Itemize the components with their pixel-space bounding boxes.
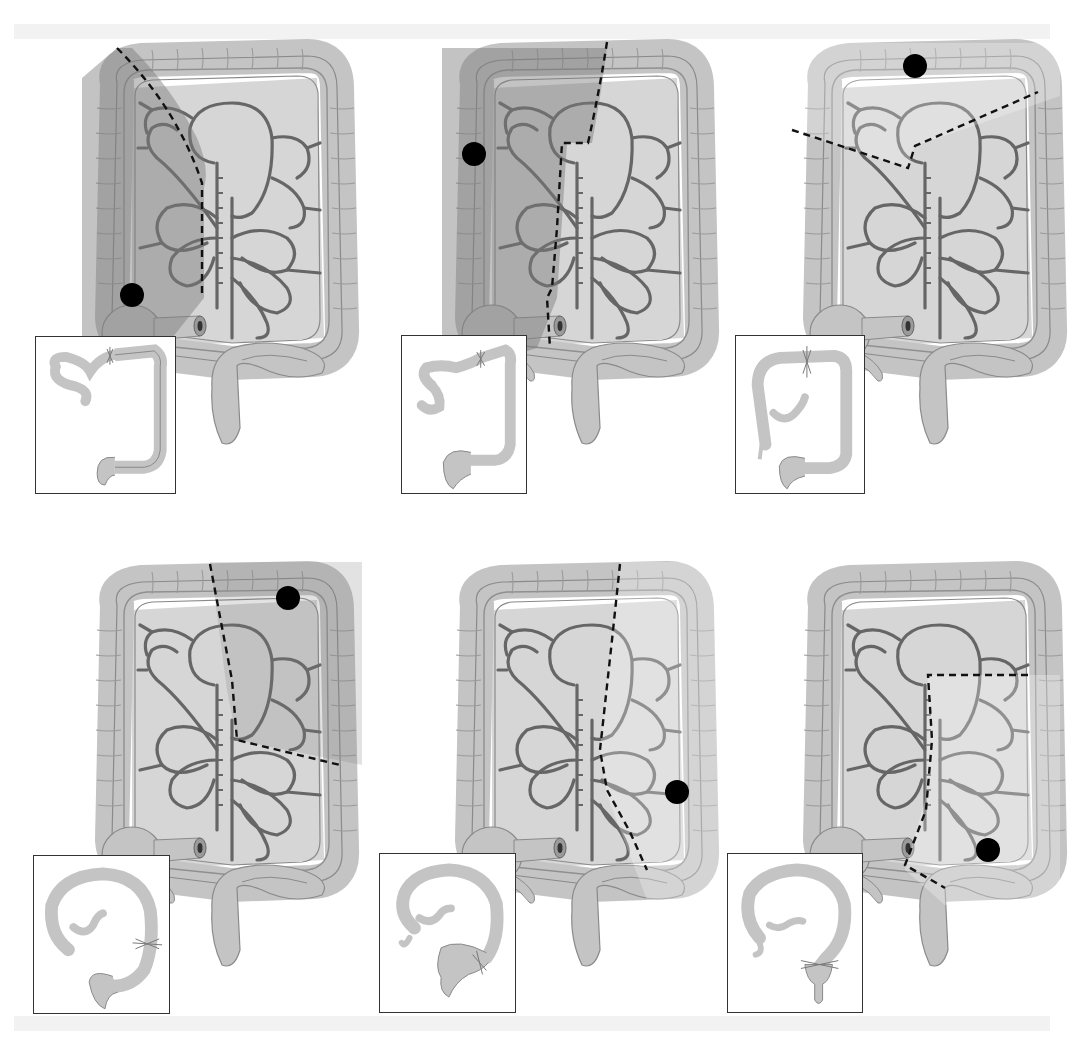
- tumor-marker: [120, 283, 144, 307]
- inset-extended-right-hemicolectomy-result: [401, 335, 527, 494]
- top-gray-band: [14, 24, 1050, 39]
- tumor-marker: [976, 838, 1000, 862]
- anastomosis-diagram: [728, 854, 862, 1012]
- anastomosis-diagram: [380, 854, 515, 1012]
- inset-right-hemicolectomy-result: [35, 336, 176, 494]
- inset-left-hemicolectomy-result: [33, 855, 170, 1014]
- resected-region: [905, 675, 1060, 905]
- tumor-marker: [665, 780, 689, 804]
- anastomosis-diagram: [36, 337, 175, 493]
- inset-sigmoid-colectomy-result: [727, 853, 863, 1013]
- bottom-gray-band: [14, 1016, 1050, 1031]
- tumor-marker: [462, 142, 486, 166]
- tumor-marker: [903, 54, 927, 78]
- inset-extended-left-hemicolectomy-result: [379, 853, 516, 1013]
- anastomosis-diagram: [34, 856, 169, 1013]
- anastomosis-diagram: [736, 336, 864, 493]
- tumor-marker: [276, 586, 300, 610]
- anastomosis-diagram: [402, 336, 526, 493]
- inset-transverse-colectomy-result: [735, 335, 865, 494]
